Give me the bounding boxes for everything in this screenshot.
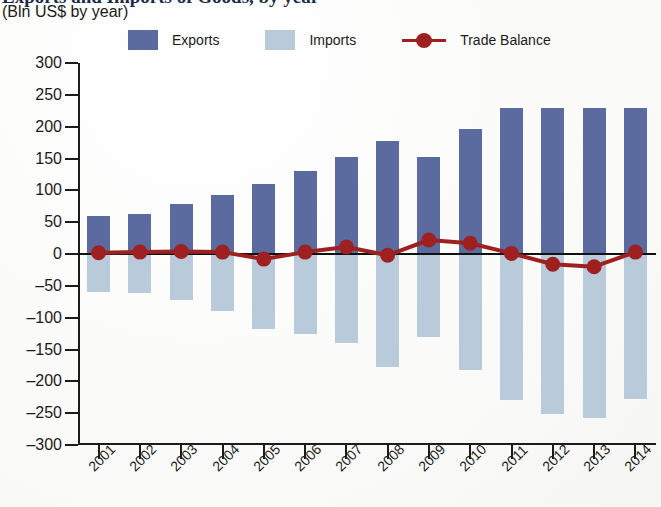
x-tick-label-2003: 2003	[167, 441, 200, 474]
y-tick-label: –300	[26, 437, 62, 453]
x-tick-label-2002: 2002	[126, 441, 159, 474]
legend-item-trade-balance[interactable]: Trade Balance	[402, 30, 551, 50]
legend-swatch-exports	[128, 30, 158, 50]
y-tick	[65, 189, 78, 191]
plot-area: 300250200150100500–50–100–150–200–250–30…	[78, 63, 656, 445]
y-tick	[65, 285, 78, 287]
trade-balance-point-2005	[256, 252, 271, 267]
y-tick	[65, 126, 78, 128]
y-tick-label: –250	[26, 405, 62, 421]
y-tick-label: –200	[26, 373, 62, 389]
y-tick	[65, 444, 78, 446]
y-tick-label: 50	[44, 214, 62, 230]
legend-label-trade-balance: Trade Balance	[460, 32, 551, 48]
x-tick-label-2001: 2001	[85, 441, 118, 474]
chart-legend: ExportsImportsTrade Balance	[128, 30, 551, 50]
y-tick	[65, 412, 78, 414]
y-tick	[65, 62, 78, 64]
x-tick-label-2010: 2010	[456, 441, 489, 474]
y-tick-label: –150	[26, 342, 62, 358]
x-tick-label-2009: 2009	[415, 441, 448, 474]
trade-balance-point-2001	[91, 245, 106, 260]
y-tick-label: 250	[35, 87, 62, 103]
x-tick-label-2011: 2011	[498, 442, 531, 475]
legend-swatch-imports	[265, 30, 295, 50]
x-tick-label-2008: 2008	[374, 441, 407, 474]
x-tick-label-2005: 2005	[250, 441, 283, 474]
y-tick	[65, 349, 78, 351]
trade-balance-point-2011	[504, 246, 519, 261]
x-tick-label-2004: 2004	[209, 441, 242, 474]
trade-balance-point-2007	[339, 240, 354, 255]
trade-balance-line	[78, 63, 656, 445]
y-tick-label: 150	[35, 151, 62, 167]
trade-balance-point-2012	[545, 257, 560, 272]
y-tick-label: 300	[35, 55, 62, 71]
legend-label-exports: Exports	[172, 32, 219, 48]
y-tick	[65, 221, 78, 223]
x-tick-label-2006: 2006	[291, 441, 324, 474]
y-tick	[65, 94, 78, 96]
y-tick	[65, 158, 78, 160]
y-tick-label: –100	[26, 310, 62, 326]
legend-item-imports[interactable]: Imports	[265, 30, 356, 50]
x-tick-label-2013: 2013	[580, 441, 613, 474]
y-tick	[65, 253, 78, 255]
trade-balance-point-2008	[380, 248, 395, 263]
y-tick-label: 200	[35, 119, 62, 135]
chart-subtitle: (Bln US$ by year)	[2, 2, 128, 22]
legend-line-marker-icon	[402, 30, 446, 50]
trade-balance-point-2003	[174, 244, 189, 259]
y-tick	[65, 380, 78, 382]
y-tick-label: 0	[53, 246, 62, 262]
trade-balance-point-2002	[132, 245, 147, 260]
y-tick-label: 100	[35, 182, 62, 198]
x-tick-label-2007: 2007	[332, 441, 365, 474]
trade-balance-point-2009	[421, 233, 436, 248]
x-tick-label-2014: 2014	[621, 441, 654, 474]
legend-label-imports: Imports	[309, 32, 356, 48]
trade-balance-point-2004	[215, 245, 230, 260]
trade-balance-point-2010	[463, 236, 478, 251]
chart-page: Exports and Imports of Goods, by year (B…	[0, 0, 661, 507]
trade-balance-point-2006	[298, 245, 313, 260]
legend-item-exports[interactable]: Exports	[128, 30, 219, 50]
y-tick-label: –50	[35, 278, 62, 294]
x-tick-label-2012: 2012	[539, 441, 572, 474]
y-tick	[65, 317, 78, 319]
trade-balance-point-2013	[587, 259, 602, 274]
trade-balance-point-2014	[628, 245, 643, 260]
